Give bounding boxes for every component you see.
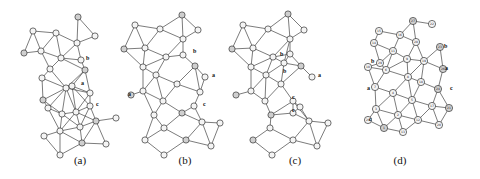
- graph-edge: [186, 140, 211, 146]
- graph-edge: [143, 57, 166, 67]
- graph-edge: [77, 17, 78, 43]
- graph-node: [79, 140, 85, 146]
- graph-edge: [135, 25, 160, 29]
- graph-node: [285, 11, 291, 17]
- graph-node: [287, 51, 293, 57]
- node-label: 10: [366, 65, 370, 69]
- graph-node: [180, 36, 186, 42]
- graph-node: [140, 88, 146, 94]
- graph-node: [250, 137, 256, 143]
- graph-edge: [96, 121, 106, 144]
- graph-edge: [211, 123, 220, 146]
- graph-node: [233, 92, 239, 98]
- annotation-b: b: [444, 43, 448, 49]
- graph-node: [262, 98, 268, 104]
- graph-panels: bacbaacbbacc2722151628231411919261068182…: [21, 11, 453, 158]
- graph-edge: [186, 122, 202, 140]
- graph-edge: [309, 121, 317, 146]
- annotation-a: a: [212, 72, 215, 78]
- node-label: 6: [385, 68, 387, 72]
- graph-node: [268, 112, 274, 118]
- graph-node: [73, 109, 79, 115]
- graph-edge: [124, 25, 135, 49]
- graph-edge: [124, 49, 143, 67]
- graph-node: [217, 120, 223, 126]
- graph-node: [281, 60, 287, 66]
- graph-node: [163, 54, 169, 60]
- graph-node: [87, 103, 93, 109]
- node-label: 5: [411, 98, 413, 102]
- graph-edge: [202, 122, 211, 146]
- graph-node: [191, 103, 197, 109]
- graph-edge: [145, 140, 164, 155]
- annotation-a: a: [367, 85, 370, 91]
- graph-edge: [56, 33, 61, 58]
- graph-node: [179, 110, 185, 116]
- graph-node: [142, 137, 148, 143]
- caption-b: (b): [179, 154, 192, 166]
- graph-node: [290, 137, 296, 143]
- graph-node: [142, 45, 148, 51]
- graph-edge: [272, 140, 293, 155]
- graph-node: [309, 74, 315, 80]
- node-label: 20: [437, 123, 441, 127]
- graph-node: [229, 46, 235, 52]
- graph-node: [269, 152, 275, 158]
- graph-edge: [160, 29, 183, 39]
- graph-node: [298, 63, 304, 69]
- node-label: 28: [414, 40, 418, 44]
- graph-node: [314, 143, 320, 149]
- graph-node: [40, 97, 46, 103]
- graph-node: [325, 120, 331, 126]
- annotation-c: c: [203, 101, 206, 107]
- graph-edge: [41, 33, 56, 51]
- node-label: 9: [406, 57, 408, 61]
- caption-d: (d): [394, 154, 407, 166]
- graph-edge: [60, 131, 82, 143]
- node-label: 4: [392, 91, 394, 95]
- graph-node: [287, 36, 293, 42]
- graph-node: [180, 52, 186, 58]
- node-label: 14: [372, 41, 376, 45]
- graph-node: [263, 72, 269, 78]
- graph-node: [77, 124, 83, 130]
- annotation-c: c: [96, 101, 99, 107]
- graph-node: [265, 26, 271, 32]
- graph-node: [63, 85, 69, 91]
- node-label: 17: [430, 104, 434, 108]
- graph-edge: [243, 25, 268, 29]
- graph-node: [199, 119, 205, 125]
- graph-node: [306, 118, 312, 124]
- graph-node: [30, 28, 36, 34]
- graph-edge: [265, 84, 281, 101]
- graph-edge: [293, 121, 309, 140]
- node-label: 16: [398, 33, 402, 37]
- graph-node: [208, 143, 214, 149]
- node-label: 13: [401, 130, 405, 134]
- graph-node: [195, 27, 201, 33]
- graph-node: [82, 67, 88, 73]
- node-label: 23: [438, 45, 442, 49]
- annotation-a: a: [318, 72, 321, 78]
- graph-node: [57, 128, 63, 134]
- graph-edge: [156, 75, 163, 101]
- graph-edge: [243, 25, 253, 48]
- annotation-a: a: [128, 91, 131, 97]
- figure-canvas: bacbaacbbacc2722151628231411919261068182…: [0, 0, 480, 179]
- graph-edge: [253, 140, 272, 155]
- graph-edge: [164, 140, 186, 155]
- graph-edge: [177, 66, 195, 84]
- annotation-c: c: [450, 85, 453, 91]
- graph-panel-b: baac: [121, 12, 223, 158]
- graph-node: [157, 26, 163, 32]
- graph-node: [161, 152, 167, 158]
- node-label: 21: [447, 106, 451, 110]
- annotation-c: c: [292, 107, 295, 113]
- annotation-c: c: [369, 116, 372, 122]
- graph-node: [39, 75, 45, 81]
- graph-node: [161, 125, 167, 131]
- graph-edge: [44, 136, 60, 155]
- node-label: 29: [378, 61, 382, 65]
- graph-edge: [232, 25, 243, 49]
- graph-node: [197, 89, 203, 95]
